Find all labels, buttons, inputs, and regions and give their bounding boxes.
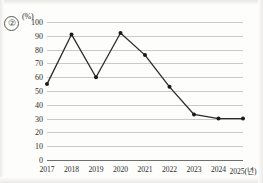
- item-number-badge: ②: [4, 16, 19, 31]
- y-tick-label: 50: [35, 87, 43, 96]
- data-point: [94, 75, 98, 79]
- scan-edge-right: [258, 0, 263, 183]
- chart-figure: ② (%) 1009080706050403020100 20172018201…: [0, 0, 263, 183]
- x-tick-label: 2021: [137, 165, 152, 174]
- y-tick-label: 60: [35, 73, 43, 82]
- x-tick-label: 2017: [39, 165, 54, 174]
- plot-area: 1009080706050403020100 20172018201920202…: [47, 22, 243, 160]
- y-tick-label: 90: [35, 31, 43, 40]
- data-point: [119, 31, 123, 35]
- y-tick-label: 70: [35, 59, 43, 68]
- scan-edge-top: [0, 0, 263, 5]
- y-tick-label: 10: [35, 142, 43, 151]
- y-tick-label: 30: [35, 114, 43, 123]
- x-tick-label: 2023: [186, 165, 201, 174]
- series-line: [47, 33, 243, 119]
- y-tick-label: 100: [31, 18, 43, 27]
- x-tick-label: 2018: [64, 165, 79, 174]
- y-tick-label: 20: [35, 128, 43, 137]
- data-point: [217, 117, 221, 121]
- line-series: [47, 22, 243, 160]
- y-tick-label: 80: [35, 45, 43, 54]
- x-tick-label: 2019: [88, 165, 103, 174]
- x-tick-label: 2020: [113, 165, 128, 174]
- data-point: [45, 82, 49, 86]
- scan-edge-left: [0, 0, 4, 183]
- x-tick-label: 2022: [162, 165, 177, 174]
- data-point: [168, 85, 172, 89]
- data-point: [70, 32, 74, 36]
- y-tick-label: 40: [35, 100, 43, 109]
- data-point: [241, 117, 245, 121]
- data-point: [143, 53, 147, 57]
- scan-edge-bottom: [0, 177, 263, 183]
- y-tick-label: 0: [39, 156, 43, 165]
- x-tick-label: 2025(년): [229, 165, 256, 176]
- gridline: [47, 160, 243, 161]
- x-tick-label: 2024: [211, 165, 226, 174]
- data-point: [192, 112, 196, 116]
